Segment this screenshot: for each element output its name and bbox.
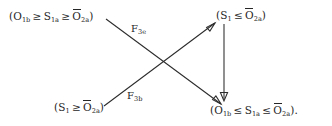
edge-f3b-arrowhead: [207, 23, 215, 31]
node-bottom-left-term2: O2a: [83, 101, 100, 113]
node-top-right-term1-base: S: [220, 9, 227, 21]
node-top-right-term2-base: O: [245, 9, 254, 21]
node-bottom-left-term2-sub: 2a: [92, 107, 100, 115]
commutative-diagram: (O1b≥S1a≥O2a) (S1≤O2a) (S1≥O2a) (O1b≤S1a…: [0, 0, 332, 126]
node-top-left-rel1: ≥: [30, 10, 43, 22]
node-top-right-term1: S1: [220, 9, 232, 21]
node-bottom-left-term1: S1: [58, 101, 70, 113]
edge-vertical-arrow: [220, 24, 227, 101]
node-top-right-close: ): [262, 9, 266, 21]
edge-label-f3b: F3b: [127, 90, 142, 101]
node-bottom-right-term1-sub: 1b: [223, 110, 231, 118]
node-bottom-left-term2-base: O: [83, 101, 92, 113]
node-top-left-term1-base: O: [13, 10, 22, 22]
node-top-left-rel2: ≥: [59, 10, 72, 22]
node-bottom-right-term2: S1a: [245, 104, 260, 116]
edge-label-f3e-sub: 3e: [138, 28, 146, 36]
node-bottom-left: (S1≥O2a): [54, 101, 104, 113]
node-bottom-left-term1-base: S: [58, 101, 65, 113]
node-top-left-term2-base: S: [44, 10, 51, 22]
node-top-left-term2-sub: 1a: [51, 16, 59, 24]
edge-f3b-line: [104, 23, 215, 106]
node-top-left-term3-sub: 2a: [81, 16, 89, 24]
node-top-left-term1: O1b: [13, 10, 30, 22]
node-bottom-left-close: ): [100, 101, 104, 113]
node-top-left-term3: O2a: [72, 10, 89, 22]
node-top-right: (S1≤O2a): [216, 9, 266, 21]
edge-label-f3b-base: F: [127, 90, 134, 101]
edge-label-f3e: F3e: [131, 23, 146, 34]
node-bottom-right: (O1b≤S1a≤O2a).: [210, 104, 298, 116]
node-bottom-right-term3: O2a: [273, 104, 290, 116]
node-bottom-right-term2-base: S: [245, 104, 252, 116]
node-bottom-right-term3-sub: 2a: [282, 110, 290, 118]
node-bottom-right-rel2: ≤: [260, 104, 273, 116]
edge-f3e-arrowhead: [213, 96, 221, 104]
edge-f3b-arrow: [104, 23, 215, 106]
node-top-left-term2: S1a: [44, 10, 59, 22]
node-bottom-right-term1-base: O: [214, 104, 223, 116]
node-top-right-term2-sub: 2a: [254, 15, 262, 23]
node-bottom-right-rel1: ≤: [231, 104, 244, 116]
node-top-left-close: ): [89, 10, 93, 22]
node-bottom-left-term1-sub: 1: [66, 107, 70, 115]
node-top-right-term2: O2a: [245, 9, 262, 21]
edge-label-f3b-sub: 3b: [134, 95, 142, 103]
node-top-right-rel1: ≤: [232, 9, 245, 21]
node-top-left-term1-sub: 1b: [22, 16, 30, 24]
node-bottom-right-close: ).: [290, 104, 298, 116]
node-bottom-right-term1: O1b: [214, 104, 231, 116]
node-top-left: (O1b≥S1a≥O2a): [9, 10, 93, 22]
node-top-left-term3-base: O: [72, 10, 81, 22]
node-bottom-right-term2-sub: 1a: [252, 110, 260, 118]
edge-label-f3e-base: F: [131, 23, 138, 34]
node-top-right-term1-sub: 1: [228, 15, 232, 23]
node-bottom-right-term3-base: O: [273, 104, 282, 116]
node-bottom-left-rel1: ≥: [70, 101, 83, 113]
